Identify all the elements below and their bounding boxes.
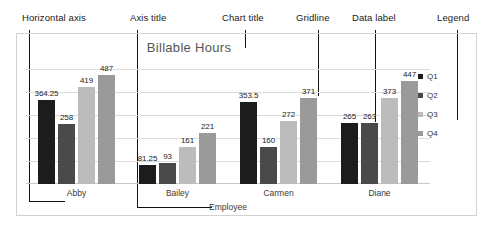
screenshot-root: Horizontal axis Axis title Chart title G… xyxy=(0,0,495,235)
bar-item[interactable]: 373 xyxy=(381,64,398,184)
bar[interactable] xyxy=(341,123,358,184)
legend-item[interactable]: Q1 xyxy=(418,72,438,81)
bar-item[interactable]: 419 xyxy=(78,64,95,184)
data-label: 221 xyxy=(201,122,214,131)
data-label: 258 xyxy=(60,113,73,122)
bar[interactable] xyxy=(280,121,297,184)
annotation-legend: Legend xyxy=(437,12,469,23)
legend-label: Q4 xyxy=(427,129,438,138)
annotation-data-label: Data label xyxy=(352,12,396,23)
bar-item[interactable]: 263 xyxy=(361,64,378,184)
bar[interactable] xyxy=(38,100,55,184)
data-label: 272 xyxy=(282,110,295,119)
data-label: 371 xyxy=(302,87,315,96)
annotation-gridline: Gridline xyxy=(296,12,330,23)
bar[interactable] xyxy=(58,124,75,184)
bar[interactable] xyxy=(240,102,257,184)
data-label: 81.25 xyxy=(138,154,158,163)
bar-item[interactable]: 487 xyxy=(98,64,115,184)
legend-swatch xyxy=(418,74,423,79)
axis-title: Employee xyxy=(26,202,430,212)
bar-item[interactable]: 93 xyxy=(159,64,176,184)
legend-item[interactable]: Q3 xyxy=(418,110,438,119)
bar-item[interactable]: 161 xyxy=(179,64,196,184)
annotation-axis-title: Axis title xyxy=(130,12,166,23)
data-label: 447 xyxy=(403,70,416,79)
bar-item[interactable]: 221 xyxy=(199,64,216,184)
bar[interactable] xyxy=(361,123,378,184)
category-label: Diane xyxy=(329,188,430,198)
legend-label: Q3 xyxy=(427,110,438,119)
bar[interactable] xyxy=(401,81,418,184)
data-label: 373 xyxy=(383,87,396,96)
bar[interactable] xyxy=(159,163,176,184)
legend-item[interactable]: Q4 xyxy=(418,129,438,138)
bar-item[interactable]: 447 xyxy=(401,64,418,184)
legend-swatch xyxy=(418,131,423,136)
bar-item[interactable]: 371 xyxy=(300,64,317,184)
bar-item[interactable]: 364.25 xyxy=(38,64,55,184)
legend-swatch xyxy=(418,112,423,117)
bar-item[interactable]: 272 xyxy=(280,64,297,184)
chart-title: Billable Hours xyxy=(24,40,354,55)
category-label: Carmen xyxy=(228,188,329,198)
bar[interactable] xyxy=(179,147,196,184)
annotation-chart-title: Chart title xyxy=(222,12,264,23)
bar-item[interactable]: 353.5 xyxy=(240,64,257,184)
legend-label: Q2 xyxy=(427,91,438,100)
bar-group: 81.2593161221 xyxy=(127,64,228,184)
bar-item[interactable]: 258 xyxy=(58,64,75,184)
bar[interactable] xyxy=(199,133,216,184)
data-label: 263 xyxy=(363,112,376,121)
bar-group: 265263373447 xyxy=(329,64,430,184)
category-label: Abby xyxy=(26,188,127,198)
bar-group: 353.5160272371 xyxy=(228,64,329,184)
data-label: 161 xyxy=(181,136,194,145)
plot-area: 364.2525841948781.2593161221353.51602723… xyxy=(26,64,430,184)
data-label: 487 xyxy=(100,64,113,73)
bar[interactable] xyxy=(260,147,277,184)
bar[interactable] xyxy=(300,98,317,184)
category-label: Bailey xyxy=(127,188,228,198)
data-label: 93 xyxy=(163,152,172,161)
bar[interactable] xyxy=(381,98,398,184)
bar[interactable] xyxy=(78,87,95,184)
data-label: 265 xyxy=(343,112,356,121)
data-label: 419 xyxy=(80,76,93,85)
annotation-horizontal-axis: Horizontal axis xyxy=(22,12,86,23)
bar-item[interactable]: 265 xyxy=(341,64,358,184)
bar-chart: Billable Hours 364.2525841948781.2593161… xyxy=(24,38,469,210)
bar-group: 364.25258419487 xyxy=(26,64,127,184)
bar-item[interactable]: 160 xyxy=(260,64,277,184)
legend-swatch xyxy=(418,93,423,98)
bar-item[interactable]: 81.25 xyxy=(139,64,156,184)
bar-groups: 364.2525841948781.2593161221353.51602723… xyxy=(26,64,430,184)
bar[interactable] xyxy=(139,165,156,184)
data-label: 364.25 xyxy=(35,89,59,98)
data-label: 160 xyxy=(262,136,275,145)
legend: Q1Q2Q3Q4 xyxy=(418,72,438,138)
legend-label: Q1 xyxy=(427,72,438,81)
legend-item[interactable]: Q2 xyxy=(418,91,438,100)
category-axis-labels: AbbyBaileyCarmenDiane xyxy=(26,188,430,198)
data-label: 353.5 xyxy=(239,91,259,100)
bar[interactable] xyxy=(98,75,115,184)
